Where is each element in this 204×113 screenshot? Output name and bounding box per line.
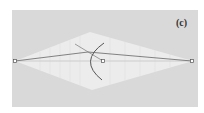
center-point-marker — [102, 60, 105, 63]
diagram-figure: (c) — [0, 0, 204, 113]
right-point-marker — [191, 60, 194, 63]
panel-label: (c) — [176, 17, 187, 29]
left-point-marker — [14, 60, 17, 63]
